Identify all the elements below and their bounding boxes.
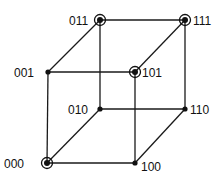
edges-group bbox=[47, 20, 185, 163]
node-label-100: 100 bbox=[141, 160, 161, 174]
hypercube-diagram: 000001010011100101110111 bbox=[0, 0, 223, 180]
node-label-110: 110 bbox=[190, 103, 209, 117]
labels-group: 000001010011100101110111 bbox=[4, 14, 212, 174]
dot-icon bbox=[182, 106, 187, 111]
node-100 bbox=[132, 160, 137, 165]
edge-000-010 bbox=[47, 109, 100, 163]
dot-icon bbox=[97, 17, 103, 23]
dot-icon bbox=[132, 69, 138, 75]
cube-graph: 000001010011100101110111 bbox=[0, 0, 223, 180]
edge-000-001 bbox=[47, 72, 48, 163]
node-label-111: 111 bbox=[193, 14, 212, 28]
node-label-011: 011 bbox=[69, 14, 88, 28]
edge-101-111 bbox=[135, 20, 185, 72]
edge-100-110 bbox=[135, 109, 185, 163]
node-label-000: 000 bbox=[4, 157, 24, 171]
dot-icon bbox=[45, 69, 50, 74]
dot-icon bbox=[97, 106, 102, 111]
node-110 bbox=[182, 106, 187, 111]
node-label-101: 101 bbox=[142, 66, 162, 80]
node-001 bbox=[45, 69, 50, 74]
dot-icon bbox=[44, 160, 50, 166]
node-label-001: 001 bbox=[14, 66, 34, 80]
node-label-010: 010 bbox=[68, 103, 88, 117]
dot-icon bbox=[182, 17, 188, 23]
node-010 bbox=[97, 106, 102, 111]
dot-icon bbox=[132, 160, 137, 165]
